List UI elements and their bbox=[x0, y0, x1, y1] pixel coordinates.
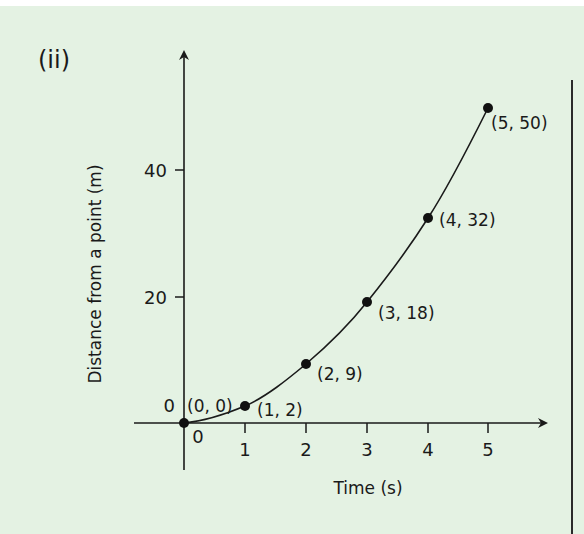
y-tick-label: 20 bbox=[144, 287, 167, 308]
point-label: (2, 9) bbox=[317, 364, 363, 384]
panel-label: (ii) bbox=[38, 46, 70, 74]
x-ticks: 1 2 3 4 5 0 bbox=[192, 423, 493, 460]
data-point bbox=[301, 359, 311, 369]
data-point bbox=[240, 401, 250, 411]
x-tick-label: 2 bbox=[300, 439, 311, 460]
data-point bbox=[362, 297, 372, 307]
x-tick-label: 1 bbox=[239, 439, 250, 460]
point-label: (1, 2) bbox=[257, 400, 303, 420]
data-point bbox=[179, 418, 189, 428]
x-axis-title: Time (s) bbox=[332, 478, 402, 498]
point-label: (3, 18) bbox=[378, 303, 435, 323]
y-tick-label: 40 bbox=[144, 160, 167, 181]
x-tick-label: 3 bbox=[361, 439, 372, 460]
x-origin-label: 0 bbox=[192, 426, 203, 447]
point-label: (4, 32) bbox=[439, 210, 496, 230]
x-tick-label: 5 bbox=[482, 439, 493, 460]
y-origin-label: 0 bbox=[164, 395, 175, 416]
x-tick-label: 4 bbox=[422, 439, 433, 460]
distance-time-chart: (ii) 20 40 0 1 2 3 4 5 0 Time (s) Distan… bbox=[0, 0, 584, 534]
y-ticks: 20 40 0 bbox=[144, 160, 184, 416]
y-axis-title: Distance from a point (m) bbox=[85, 164, 105, 383]
point-label: (0, 0) bbox=[187, 396, 233, 416]
point-annotations: (0, 0) (1, 2) (2, 9) (3, 18) (4, 32) (5,… bbox=[187, 113, 548, 420]
data-point bbox=[423, 213, 433, 223]
data-point bbox=[483, 103, 493, 113]
point-label: (5, 50) bbox=[491, 113, 548, 133]
